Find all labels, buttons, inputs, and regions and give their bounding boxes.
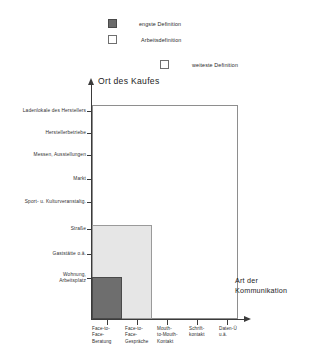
x-tick-mark-4 [227,320,228,325]
x-tick-label-3: Schrift- kontakt [189,326,223,339]
x-tick-mark-1 [137,320,138,325]
region-engste-definition [92,277,122,319]
y-tick-3: Markt [0,176,86,184]
y-tick-6: Gaststätte o.ä. [0,251,86,259]
x-tick-3: Schrift- kontakt [189,326,223,339]
x-axis-line [91,319,246,320]
x-axis-arrow-icon [244,316,251,322]
x-tick-2: Mouth- to-Mouth- Kontakt [157,326,191,345]
x-tick-label-1: Face-to- Face- Gespräche [125,326,159,345]
legend-label-engste-definition: engste Definition [139,21,181,27]
y-tick-label-5: Straße [71,226,86,232]
x-tick-mark-2 [167,320,168,325]
y-tick-mark-4 [87,202,92,203]
y-tick-label-4: Sport- u. Kulturveranstaltg. [25,199,86,205]
x-tick-label-0: Face-to- Face- Beratung [92,326,126,345]
legend-item-arbeitsdefinition[interactable]: Arbeitsdefinition [108,35,181,44]
x-axis-title-line1: Art der [235,276,287,286]
x-tick-mark-3 [197,320,198,325]
legend-swatch-weiteste-definition [160,60,169,69]
x-tick-mark-0 [107,320,108,325]
y-tick-4: Sport- u. Kulturveranstaltg. [0,199,86,207]
y-tick-mark-5 [87,229,92,230]
chart-canvas: engste Definition Arbeitsdefinition weit… [0,0,317,363]
y-tick-0: Ladenlokale des Herstellers [0,108,86,116]
x-tick-label-4: Daten-Ü u.ä. [219,326,253,339]
y-axis-title: Ort des Kaufes [98,76,160,86]
y-tick-label-0: Ladenlokale des Herstellers [23,108,86,114]
x-tick-1: Face-to- Face- Gespräche [125,326,159,345]
legend-swatch-arbeitsdefinition [108,35,117,44]
y-tick-label-1: Herstellerbetriebe [45,130,86,136]
legend-label-arbeitsdefinition: Arbeitsdefinition [141,37,181,43]
y-tick-mark-6 [87,254,92,255]
y-tick-1: Herstellerbetriebe [0,130,86,138]
y-tick-mark-1 [87,133,92,134]
x-tick-0: Face-to- Face- Beratung [92,326,126,345]
y-tick-mark-0 [87,111,92,112]
y-tick-mark-7 [87,278,92,279]
y-tick-2: Messen, Ausstellungen [0,152,86,160]
y-tick-5: Straße [0,226,86,234]
legend-label-weiteste-definition: weiteste Definition [192,62,238,68]
y-axis-arrow-icon [88,78,94,85]
x-tick-4: Daten-Ü u.ä. [219,326,253,339]
y-tick-7: Wohnung, Arbeitsplatz [0,272,86,280]
x-axis-title: Art der Kommunikation [235,276,287,296]
y-tick-mark-2 [87,155,92,156]
x-axis-title-line2: Kommunikation [235,286,287,296]
x-tick-label-2: Mouth- to-Mouth- Kontakt [157,326,191,345]
y-tick-label-7: Wohnung, Arbeitsplatz [59,272,86,284]
legend-item-engste-definition[interactable]: engste Definition [108,19,181,28]
legend-swatch-engste-definition [108,19,117,28]
y-tick-mark-3 [87,179,92,180]
legend-item-weiteste-definition[interactable]: weiteste Definition [160,60,238,69]
y-tick-label-2: Messen, Ausstellungen [34,152,86,158]
y-tick-label-6: Gaststätte o.ä. [53,251,86,257]
y-tick-label-3: Markt [73,176,86,182]
